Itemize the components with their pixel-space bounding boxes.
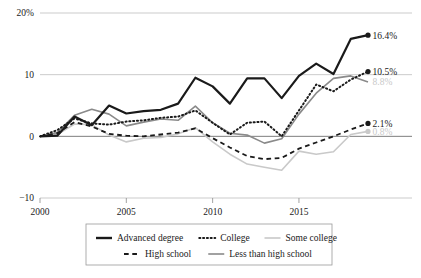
end-marker-high-school [365,121,370,126]
end-label-less-than-high-school: 8.8% [373,77,393,87]
legend-label-advanced-degree[interactable]: Advanced degree [117,233,183,243]
y-tick-label: 0 [29,132,34,142]
y-tick-label: −10 [19,193,34,203]
x-tick-label: 2005 [117,207,136,217]
x-tick-label: 2015 [289,207,308,217]
end-label-high-school: 2.1% [373,119,393,129]
y-tick-label: 10 [25,70,35,80]
legend-label-college[interactable]: College [220,233,250,243]
end-marker-some-college [365,129,370,134]
legend-label-some-college[interactable]: Some college [286,233,337,243]
chart-container: 20%100−10 2000200520102015 16.4%10.5%0.8… [0,0,421,278]
legend-label-high-school[interactable]: High school [145,249,192,259]
legend-label-less-than-high-school[interactable]: Less than high school [229,249,312,259]
x-tick-label: 2000 [31,207,50,217]
chart-legend: Advanced degreeCollegeSome collegeHigh s… [86,224,337,265]
end-marker-advanced-degree [365,33,370,38]
x-tick-label: 2010 [203,207,222,217]
end-label-advanced-degree: 16.4% [373,31,398,41]
end-marker-college [365,69,370,74]
end-label-college: 10.5% [373,67,398,77]
y-tick-label: 20% [17,8,35,18]
line-chart: 20%100−10 2000200520102015 16.4%10.5%0.8… [0,0,421,278]
